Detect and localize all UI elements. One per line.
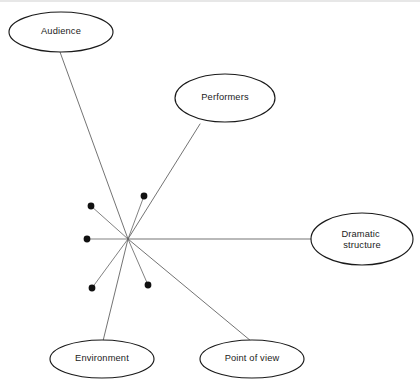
node-dramatic-structure-label-line-2: structure <box>343 240 381 250</box>
node-audience-label: Audience <box>41 26 81 36</box>
spoke-hub-to-audience <box>60 52 128 239</box>
node-performers[interactable]: Performers <box>175 74 275 122</box>
node-environment-label: Environment <box>75 353 129 363</box>
node-audience[interactable]: Audience <box>9 12 113 52</box>
dot-upper-right <box>141 193 148 200</box>
dot-group <box>84 193 152 292</box>
node-dramatic-structure-label: Dramatic structure <box>341 229 382 250</box>
node-dramatic-structure-label-line-1: Dramatic <box>341 229 380 239</box>
stub-line-lower-left <box>93 239 128 286</box>
spoke-hub-to-environment <box>103 239 128 341</box>
node-point-of-view-label: Point of view <box>225 353 280 363</box>
dot-upper-left <box>88 203 95 210</box>
node-group: Audience Performers Dramatic structure E… <box>9 12 413 378</box>
spoke-hub-to-point-of-view <box>128 239 251 341</box>
node-point-of-view[interactable]: Point of view <box>200 340 304 378</box>
node-performers-label: Performers <box>201 92 249 102</box>
node-environment[interactable]: Environment <box>50 340 154 378</box>
dot-lower-left <box>89 285 96 292</box>
stub-line-lower-right <box>128 239 147 283</box>
dot-lower-right <box>145 282 152 289</box>
diagram-svg: Audience Performers Dramatic structure E… <box>0 0 420 388</box>
node-dramatic-structure[interactable]: Dramatic structure <box>311 213 413 265</box>
spoke-hub-to-performers <box>128 124 200 239</box>
dot-left <box>84 236 91 243</box>
diagram-canvas: Audience Performers Dramatic structure E… <box>0 0 420 388</box>
